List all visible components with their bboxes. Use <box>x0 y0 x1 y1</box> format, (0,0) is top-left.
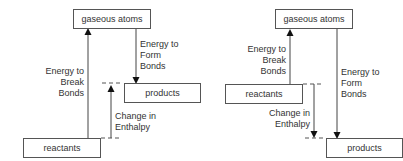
label-line: Energy to <box>140 39 190 50</box>
label-line: Enthalpy <box>115 122 175 133</box>
label-line: Break <box>236 55 286 66</box>
right-gaseous-atoms-box: gaseous atoms <box>275 9 353 29</box>
left-products-box: products <box>124 83 201 103</box>
label-line: Change in <box>115 111 175 122</box>
label-line: Enthalpy <box>250 119 310 130</box>
right-enthalpy-label: Change in Enthalpy <box>250 108 310 130</box>
label-line: Bonds <box>236 66 286 77</box>
label-line: Energy to <box>236 44 286 55</box>
label-line: Form <box>341 78 396 89</box>
left-gaseous-atoms-box: gaseous atoms <box>73 9 151 29</box>
label-line: Energy to <box>341 67 396 78</box>
label-line: Break <box>34 77 84 88</box>
label-line: Bonds <box>341 89 396 100</box>
label-line: Change in <box>250 108 310 119</box>
left-reactants-label: reactants <box>43 143 80 153</box>
left-gaseous-atoms-label: gaseous atoms <box>81 14 142 24</box>
label-line: Bonds <box>140 61 190 72</box>
left-break-bonds-label: Energy to Break Bonds <box>34 66 84 99</box>
left-products-label: products <box>145 88 180 98</box>
left-reactants-box: reactants <box>23 138 101 158</box>
right-break-bonds-label: Energy to Break Bonds <box>236 44 286 77</box>
right-gaseous-atoms-label: gaseous atoms <box>283 14 344 24</box>
label-line: Energy to <box>34 66 84 77</box>
label-line: Bonds <box>34 88 84 99</box>
right-products-label: products <box>347 143 382 153</box>
right-reactants-box: reactants <box>225 84 303 104</box>
right-reactants-label: reactants <box>245 89 282 99</box>
label-line: Form <box>140 50 190 61</box>
right-products-box: products <box>326 138 403 158</box>
left-enthalpy-label: Change in Enthalpy <box>115 111 175 133</box>
left-form-bonds-label: Energy to Form Bonds <box>140 39 190 72</box>
right-form-bonds-label: Energy to Form Bonds <box>341 67 396 100</box>
